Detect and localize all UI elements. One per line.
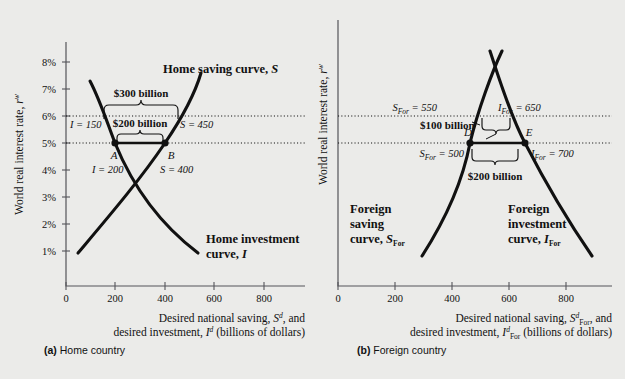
value-label-s-450: S = 450 xyxy=(180,119,214,130)
brace-200-billion-b xyxy=(472,149,518,165)
x-tick-labels-a: 0 200 400 600 800 xyxy=(63,293,272,304)
x-axis-title-a-line1: Desired national saving, Sd, and xyxy=(159,311,305,325)
x-tick-label: 800 xyxy=(558,293,574,304)
foreign-saving-curve-label-2: saving xyxy=(350,217,385,231)
point-b-marker xyxy=(161,139,168,146)
caption-b-tag: (b) xyxy=(357,344,370,356)
value-label-sfor-500: SFor = 500 xyxy=(419,148,464,162)
point-a-label: A xyxy=(110,149,118,161)
y-tick-label: 8% xyxy=(42,57,56,68)
y-axis-title-b: World real interest rate, rw xyxy=(316,64,330,185)
x-tick-label: 0 xyxy=(63,293,68,304)
value-label-i-200: I = 200 xyxy=(91,164,124,175)
foreign-saving-curve-label-1: Foreign xyxy=(350,202,391,216)
value-label-ifor-650: IFor = 650 xyxy=(497,102,542,116)
home-investment-curve-label-2: curve, I xyxy=(206,247,248,261)
panel-foreign-country: World real interest rate, rw 0 200 400 6… xyxy=(312,0,625,379)
home-saving-curve xyxy=(78,73,201,253)
point-e-marker xyxy=(521,139,528,146)
x-tick-label: 600 xyxy=(501,293,517,304)
point-e-label: E xyxy=(525,126,533,138)
y-tick-labels-a: 8% 7% 6% 5% 4% 3% 2% 1% xyxy=(42,57,56,257)
figure-container: World real interest rate, rw 8% 7% 6% 5%… xyxy=(0,0,625,379)
x-tick-label: 800 xyxy=(256,293,272,304)
caption-panel-a: (a) Home country xyxy=(44,344,125,356)
x-tick-label: 400 xyxy=(444,293,460,304)
chart-home-country: World real interest rate, rw 8% 7% 6% 5%… xyxy=(0,0,313,340)
caption-b-text: Foreign country xyxy=(373,344,446,356)
x-tick-label: 200 xyxy=(387,293,403,304)
brace-100-billion xyxy=(482,118,510,134)
x-tick-label: 200 xyxy=(107,293,123,304)
y-tick-label: 3% xyxy=(42,192,56,203)
chart-foreign-country: World real interest rate, rw 0 200 400 6… xyxy=(312,0,625,340)
value-label-sfor-550: SFor = 550 xyxy=(392,102,437,116)
point-d-marker xyxy=(466,139,473,146)
y-tick-label: 1% xyxy=(42,246,56,257)
y-tick-label: 6% xyxy=(42,111,56,122)
brace-300-billion-label: $300 billion xyxy=(114,87,169,99)
point-d-label: D xyxy=(463,126,472,138)
caption-panel-b: (b) Foreign country xyxy=(357,344,446,356)
x-tick-label: 0 xyxy=(335,293,340,304)
brace-200-billion-b-label: $200 billion xyxy=(468,170,523,182)
x-axis-title-a-line2: desired investment, Id (billions of doll… xyxy=(113,325,305,339)
x-axis-title-b-line1: Desired national saving, SdFor, and xyxy=(455,311,612,327)
brace-100-billion-leader xyxy=(486,134,496,139)
y-tick-label: 2% xyxy=(42,219,56,230)
x-axis-title-b-line2: desired investment, IdFor (billions of d… xyxy=(410,325,612,340)
x-tick-labels-b: 0 200 400 600 800 xyxy=(335,293,574,304)
point-b-label: B xyxy=(168,149,175,161)
panel-home-country: World real interest rate, rw 8% 7% 6% 5%… xyxy=(0,0,313,379)
value-label-i-150: I = 150 xyxy=(69,119,102,130)
y-tick-label: 5% xyxy=(42,138,56,149)
x-tick-label: 600 xyxy=(206,293,222,304)
y-tick-label: 4% xyxy=(42,165,56,176)
foreign-investment-curve-label-1: Foreign xyxy=(508,202,549,216)
y-tick-label: 7% xyxy=(42,84,56,95)
y-axis-title-a: World real interest rate, rw xyxy=(12,94,26,215)
foreign-investment-curve-label-2: investment xyxy=(508,217,567,231)
caption-a-tag: (a) xyxy=(44,344,57,356)
x-tick-label: 400 xyxy=(157,293,173,304)
point-a-marker xyxy=(111,139,118,146)
home-investment-curve-label: Home investment xyxy=(206,232,300,246)
foreign-investment-curve-label-3: curve, IFor xyxy=(508,232,561,248)
value-label-ifor-700: IFor = 700 xyxy=(530,148,575,162)
caption-a-text: Home country xyxy=(60,344,125,356)
home-saving-curve-label: Home saving curve, S xyxy=(163,62,278,76)
brace-200-billion-label: $200 billion xyxy=(113,117,168,129)
value-label-s-400: S = 400 xyxy=(160,164,194,175)
foreign-saving-curve-label-3: curve, SFor xyxy=(350,232,405,248)
